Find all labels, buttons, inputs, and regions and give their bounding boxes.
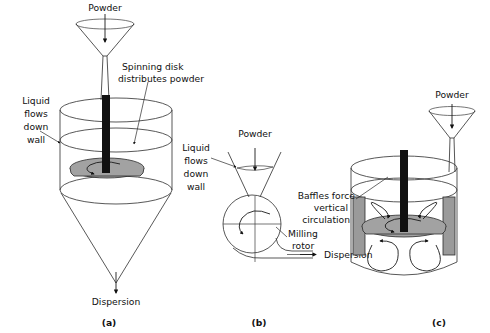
liquid-wall-label-a-line3: down xyxy=(24,121,49,132)
funnel-icon-b xyxy=(228,148,281,197)
caption-c: (c) xyxy=(432,317,446,328)
funnel-icon-c xyxy=(429,104,475,172)
shaft-c xyxy=(400,150,408,232)
dispersion-equipment-diagram: Powder Liquid flows down wall Spinning d… xyxy=(0,0,490,333)
milling-rotor-label-line2: rotor xyxy=(292,240,314,251)
powder-label-a: Powder xyxy=(88,2,122,13)
panel-c: Powder Baffles force vertical circulatio… xyxy=(298,89,475,328)
spinning-disk-label-line1: Spinning disk xyxy=(122,61,184,72)
shaft-a xyxy=(102,95,110,173)
dispersion-label-a: Dispersion xyxy=(92,296,141,307)
panel-b: Powder Liquid flows down wall Milling ro… xyxy=(182,128,372,328)
milling-rotor-b xyxy=(223,195,281,262)
caption-a: (a) xyxy=(102,317,117,328)
liquid-wall-label-a-line1: Liquid xyxy=(22,95,50,106)
leader-spinning-disk-a xyxy=(134,82,148,144)
leader-liquid-wall-b xyxy=(211,158,236,167)
circulation-loop-icon-lower-c xyxy=(368,241,441,271)
milling-rotor-label-line1: Milling xyxy=(288,228,318,239)
funnel-icon-a xyxy=(76,14,134,100)
liquid-wall-label-b-line3: down xyxy=(184,168,209,179)
powder-label-c: Powder xyxy=(435,89,469,100)
liquid-wall-label-b-line4: wall xyxy=(187,181,205,192)
spinning-disk-label-line2: distributes powder xyxy=(118,73,204,84)
caption-b: (b) xyxy=(252,317,267,328)
figure-root: Powder Liquid flows down wall Spinning d… xyxy=(0,0,490,333)
leader-milling-rotor-b xyxy=(276,227,287,237)
baffles-label-line3: circulation xyxy=(302,214,350,225)
panel-a: Powder Liquid flows down wall Spinning d… xyxy=(22,2,204,328)
baffles-label-line1: Baffles force xyxy=(298,190,356,201)
vessel-a xyxy=(60,98,172,283)
liquid-wall-label-b-line2: flows xyxy=(184,155,208,166)
liquid-wall-label-b-line1: Liquid xyxy=(182,142,210,153)
baffles-label-line2: vertical xyxy=(314,202,348,213)
powder-label-b: Powder xyxy=(238,128,272,139)
liquid-wall-label-a-line4: wall xyxy=(27,134,45,145)
liquid-wall-label-a-line2: flows xyxy=(24,108,48,119)
